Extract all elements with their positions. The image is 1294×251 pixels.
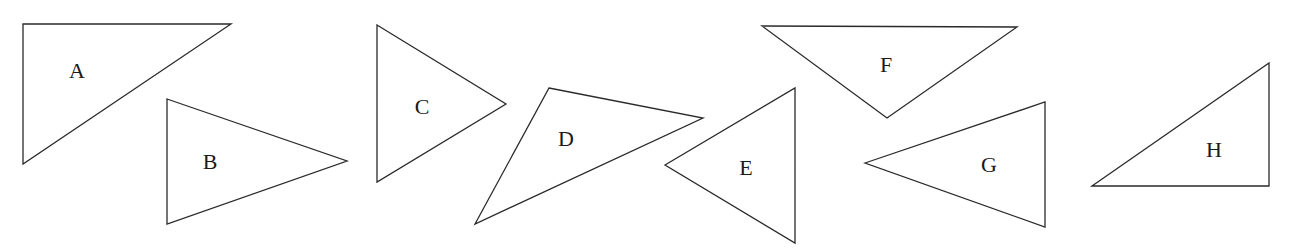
triangle-e-label: E (739, 155, 752, 180)
diagram-svg: A B C D E F G H (0, 0, 1294, 251)
triangle-c-shape (377, 25, 506, 182)
triangle-a-label: A (69, 58, 85, 83)
triangle-e: E (665, 88, 795, 243)
triangle-d-label: D (558, 126, 574, 151)
triangle-b: B (167, 99, 347, 224)
triangle-g-shape (865, 102, 1045, 227)
triangle-d: D (475, 88, 703, 224)
triangle-d-shape (475, 88, 703, 224)
triangle-b-shape (167, 99, 347, 224)
triangle-g-label: G (981, 152, 997, 177)
triangle-h-label: H (1206, 137, 1222, 162)
triangle-c: C (377, 25, 506, 182)
triangle-f-label: F (880, 52, 892, 77)
triangle-g: G (865, 102, 1045, 227)
triangle-e-shape (665, 88, 795, 243)
triangle-diagram: A B C D E F G H (0, 0, 1294, 251)
triangle-b-label: B (203, 149, 218, 174)
triangle-f: F (762, 26, 1017, 118)
triangle-c-label: C (415, 94, 430, 119)
triangle-h: H (1092, 63, 1269, 186)
triangle-h-shape (1092, 63, 1269, 186)
